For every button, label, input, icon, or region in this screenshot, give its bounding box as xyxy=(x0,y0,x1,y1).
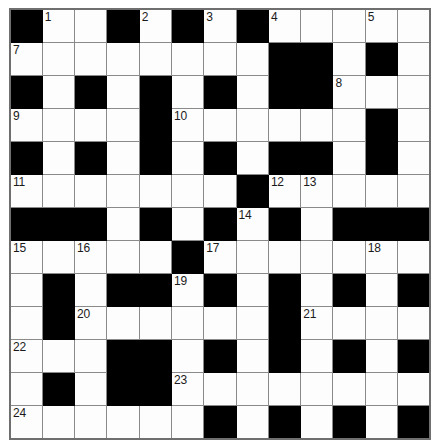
crossword-open-cell[interactable] xyxy=(301,406,333,439)
crossword-open-cell[interactable] xyxy=(333,9,365,42)
crossword-open-cell[interactable] xyxy=(107,108,139,141)
crossword-open-cell[interactable] xyxy=(42,340,74,373)
crossword-open-cell[interactable] xyxy=(171,141,203,174)
crossword-open-cell[interactable]: 18 xyxy=(365,240,397,273)
crossword-open-cell[interactable] xyxy=(107,406,139,439)
crossword-open-cell[interactable] xyxy=(171,42,203,75)
crossword-open-cell[interactable] xyxy=(171,406,203,439)
crossword-open-cell[interactable] xyxy=(301,240,333,273)
crossword-open-cell[interactable] xyxy=(333,108,365,141)
crossword-open-cell[interactable] xyxy=(236,75,268,108)
crossword-open-cell[interactable] xyxy=(398,373,430,406)
crossword-open-cell[interactable] xyxy=(75,274,107,307)
crossword-open-cell[interactable]: 23 xyxy=(171,373,203,406)
crossword-open-cell[interactable]: 11 xyxy=(10,174,42,207)
crossword-open-cell[interactable] xyxy=(236,240,268,273)
crossword-open-cell[interactable] xyxy=(236,42,268,75)
crossword-open-cell[interactable] xyxy=(236,340,268,373)
crossword-open-cell[interactable] xyxy=(365,406,397,439)
crossword-open-cell[interactable] xyxy=(236,373,268,406)
crossword-open-cell[interactable]: 24 xyxy=(10,406,42,439)
crossword-open-cell[interactable] xyxy=(107,207,139,240)
crossword-open-cell[interactable] xyxy=(42,240,74,273)
crossword-open-cell[interactable] xyxy=(42,108,74,141)
crossword-open-cell[interactable] xyxy=(268,373,300,406)
crossword-open-cell[interactable] xyxy=(236,274,268,307)
crossword-open-cell[interactable] xyxy=(75,373,107,406)
crossword-open-cell[interactable] xyxy=(10,274,42,307)
crossword-open-cell[interactable] xyxy=(333,240,365,273)
crossword-open-cell[interactable] xyxy=(365,307,397,340)
crossword-open-cell[interactable] xyxy=(398,9,430,42)
crossword-open-cell[interactable] xyxy=(107,240,139,273)
crossword-open-cell[interactable] xyxy=(236,307,268,340)
crossword-open-cell[interactable]: 2 xyxy=(139,9,171,42)
crossword-open-cell[interactable] xyxy=(365,373,397,406)
crossword-open-cell[interactable] xyxy=(75,42,107,75)
crossword-open-cell[interactable]: 17 xyxy=(204,240,236,273)
crossword-open-cell[interactable] xyxy=(365,174,397,207)
crossword-open-cell[interactable] xyxy=(301,207,333,240)
crossword-open-cell[interactable] xyxy=(10,307,42,340)
crossword-open-cell[interactable] xyxy=(107,75,139,108)
crossword-open-cell[interactable] xyxy=(204,307,236,340)
crossword-open-cell[interactable] xyxy=(139,406,171,439)
crossword-open-cell[interactable] xyxy=(268,240,300,273)
crossword-open-cell[interactable]: 7 xyxy=(10,42,42,75)
crossword-open-cell[interactable] xyxy=(75,406,107,439)
crossword-grid[interactable]: 12345789101112131415161718192021222324 xyxy=(9,8,431,440)
crossword-open-cell[interactable] xyxy=(139,307,171,340)
crossword-open-cell[interactable] xyxy=(171,340,203,373)
crossword-open-cell[interactable] xyxy=(333,42,365,75)
crossword-open-cell[interactable] xyxy=(75,174,107,207)
crossword-open-cell[interactable] xyxy=(398,307,430,340)
crossword-open-cell[interactable] xyxy=(236,406,268,439)
crossword-open-cell[interactable] xyxy=(301,9,333,42)
crossword-open-cell[interactable] xyxy=(171,174,203,207)
crossword-open-cell[interactable] xyxy=(301,373,333,406)
crossword-open-cell[interactable] xyxy=(139,174,171,207)
crossword-open-cell[interactable] xyxy=(107,307,139,340)
crossword-open-cell[interactable] xyxy=(171,207,203,240)
crossword-open-cell[interactable]: 15 xyxy=(10,240,42,273)
crossword-open-cell[interactable]: 13 xyxy=(301,174,333,207)
crossword-open-cell[interactable]: 5 xyxy=(365,9,397,42)
crossword-open-cell[interactable] xyxy=(333,174,365,207)
crossword-open-cell[interactable]: 14 xyxy=(236,207,268,240)
crossword-open-cell[interactable] xyxy=(139,240,171,273)
crossword-open-cell[interactable]: 22 xyxy=(10,340,42,373)
crossword-open-cell[interactable]: 19 xyxy=(171,274,203,307)
crossword-open-cell[interactable]: 10 xyxy=(171,108,203,141)
crossword-open-cell[interactable] xyxy=(75,9,107,42)
crossword-open-cell[interactable] xyxy=(398,141,430,174)
crossword-open-cell[interactable] xyxy=(365,75,397,108)
crossword-open-cell[interactable]: 21 xyxy=(301,307,333,340)
crossword-open-cell[interactable] xyxy=(171,75,203,108)
crossword-open-cell[interactable]: 20 xyxy=(75,307,107,340)
crossword-open-cell[interactable] xyxy=(75,108,107,141)
crossword-open-cell[interactable] xyxy=(301,274,333,307)
crossword-open-cell[interactable]: 1 xyxy=(42,9,74,42)
crossword-open-cell[interactable] xyxy=(204,373,236,406)
crossword-open-cell[interactable] xyxy=(42,75,74,108)
crossword-open-cell[interactable] xyxy=(236,141,268,174)
crossword-open-cell[interactable] xyxy=(365,340,397,373)
crossword-open-cell[interactable] xyxy=(333,141,365,174)
crossword-open-cell[interactable] xyxy=(268,108,300,141)
crossword-open-cell[interactable] xyxy=(398,75,430,108)
crossword-open-cell[interactable]: 9 xyxy=(10,108,42,141)
crossword-open-cell[interactable] xyxy=(301,340,333,373)
crossword-open-cell[interactable] xyxy=(42,141,74,174)
crossword-open-cell[interactable] xyxy=(42,406,74,439)
crossword-open-cell[interactable] xyxy=(398,174,430,207)
crossword-open-cell[interactable] xyxy=(75,340,107,373)
crossword-open-cell[interactable] xyxy=(333,307,365,340)
crossword-open-cell[interactable] xyxy=(398,108,430,141)
crossword-open-cell[interactable]: 16 xyxy=(75,240,107,273)
crossword-open-cell[interactable] xyxy=(107,141,139,174)
crossword-open-cell[interactable] xyxy=(301,108,333,141)
crossword-open-cell[interactable] xyxy=(398,42,430,75)
crossword-open-cell[interactable] xyxy=(398,240,430,273)
crossword-open-cell[interactable] xyxy=(236,108,268,141)
crossword-open-cell[interactable]: 8 xyxy=(333,75,365,108)
